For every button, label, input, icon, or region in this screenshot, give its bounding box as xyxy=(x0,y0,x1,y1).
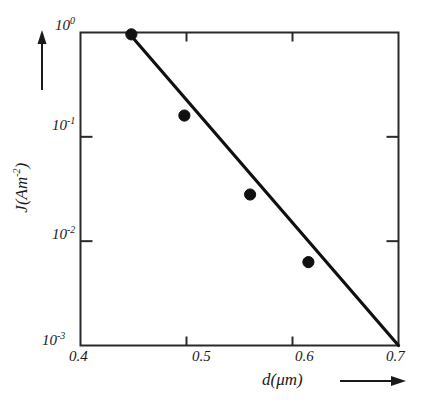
data-point xyxy=(245,189,256,200)
fit-line-group xyxy=(128,33,398,346)
y-tick-label-1e-1: 10-1 xyxy=(52,116,75,133)
y-axis-title: J(Am-2) xyxy=(12,163,30,213)
plot-frame xyxy=(81,33,399,346)
data-point xyxy=(303,257,314,268)
fit-line xyxy=(128,33,398,346)
tick-marks xyxy=(81,33,399,346)
data-point xyxy=(179,110,190,121)
y-tick-label-1e-2: 10-2 xyxy=(52,225,75,242)
y-axis-arrow-icon xyxy=(38,30,47,90)
data-point xyxy=(126,29,137,40)
y-tick-label-1e-3: 10-3 xyxy=(42,331,65,348)
axes-box xyxy=(81,33,399,346)
x-tick-label-0-7: 0.7 xyxy=(386,349,405,364)
semilog-plot-figure xyxy=(0,0,423,411)
x-tick-label-0-5: 0.5 xyxy=(192,349,211,364)
x-tick-label-0-6: 0.6 xyxy=(295,349,314,364)
y-tick-label-1e0: 100 xyxy=(55,16,75,33)
x-tick-label-0-4: 0.4 xyxy=(69,349,88,364)
x-axis-arrow-icon xyxy=(340,376,406,386)
x-axis-title: d(μm) xyxy=(262,371,303,388)
